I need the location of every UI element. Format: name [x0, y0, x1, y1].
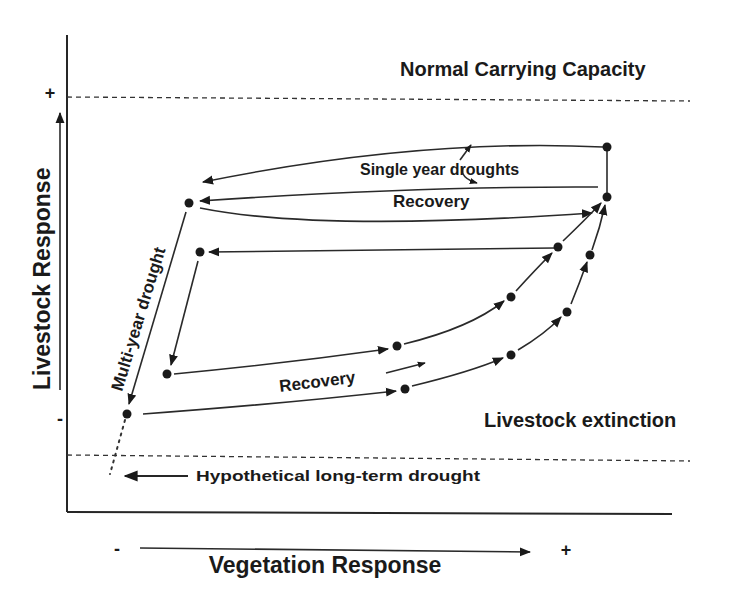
recovery-path-a2	[404, 301, 504, 344]
state-point	[185, 199, 194, 208]
x-axis-plus: +	[561, 540, 572, 560]
x-axis	[67, 512, 672, 514]
recovery-path-a1	[174, 349, 388, 374]
state-point	[563, 308, 572, 317]
livestock-vegetation-diagram: Livestock Response + - Vegetation Respon…	[0, 0, 756, 608]
recovery-path-a4	[563, 203, 601, 241]
drought-return-arrow	[209, 248, 555, 252]
hypothetical-drought-dotted-line	[110, 420, 125, 474]
state-point	[554, 243, 563, 252]
state-point	[393, 342, 402, 351]
recovery-path-b2	[412, 358, 503, 386]
state-point	[603, 193, 612, 202]
recovery-bottom-label: Recovery	[278, 368, 357, 396]
state-point	[401, 385, 410, 394]
state-point	[586, 251, 595, 260]
state-point	[603, 143, 612, 152]
hypothetical-drought-label: Hypothetical long-term drought	[196, 467, 480, 484]
recovery-path-b1	[143, 391, 396, 414]
recovery-path-b3	[518, 317, 561, 350]
x-axis-label: Vegetation Response	[209, 552, 442, 578]
recovery-path-a3	[516, 253, 552, 291]
carrying-capacity-line	[67, 97, 690, 101]
state-point	[196, 248, 205, 257]
y-axis-label: Livestock Response	[29, 168, 55, 390]
recovery-path-b4	[571, 262, 587, 304]
recovery-path-b5	[592, 205, 605, 250]
x-axis-minus: -	[114, 539, 120, 559]
extinction-line	[67, 455, 690, 461]
recovery-bottom-pointer	[386, 363, 425, 373]
state-point	[163, 370, 172, 379]
state-point	[507, 351, 516, 360]
y-axis-plus: +	[45, 83, 56, 103]
carrying-capacity-label: Normal Carrying Capacity	[400, 58, 647, 80]
extinction-label: Livestock extinction	[484, 409, 676, 431]
multi-year-drought-arrow-1	[171, 261, 198, 365]
state-point	[507, 293, 516, 302]
state-point	[123, 410, 132, 419]
single-year-droughts-label: Single year droughts	[360, 161, 519, 178]
recovery-top-label: Recovery	[393, 192, 470, 211]
y-axis-minus: -	[57, 409, 63, 429]
